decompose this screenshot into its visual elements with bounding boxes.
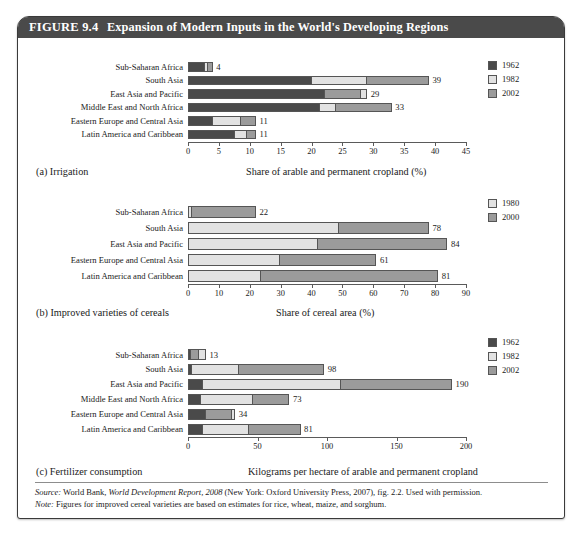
legend-label: 2002 <box>502 366 519 375</box>
x-axis-tick-label: 200 <box>460 442 473 451</box>
legend-swatch-2000 <box>488 213 497 222</box>
x-axis-tick <box>404 284 405 288</box>
category-label: East Asia and Pacific <box>110 380 183 389</box>
bar-value-label: 81 <box>304 425 313 434</box>
x-axis-tick-label: 10 <box>246 147 254 156</box>
bar-row <box>188 270 466 282</box>
bar-row <box>188 222 466 234</box>
x-axis-tick-label: 10 <box>215 289 223 298</box>
x-axis-tick-label: 150 <box>390 442 403 451</box>
figure-title-bar: FIGURE 9.4 Expansion of Modern Inputs in… <box>18 17 564 38</box>
x-axis-tick <box>281 142 282 146</box>
legend-label: 1962 <box>502 338 519 347</box>
category-label: Middle East and North Africa <box>81 103 183 112</box>
x-axis-tick-label: 40 <box>431 147 439 156</box>
x-axis-tick <box>435 284 436 288</box>
source-text-1: World Bank, <box>61 487 108 497</box>
x-axis-tick <box>258 437 259 441</box>
bar-value-label: 29 <box>371 90 380 99</box>
legend-label: 2002 <box>502 89 519 98</box>
bar-segment-1962 <box>188 394 201 405</box>
legend-swatch-1980 <box>488 199 497 208</box>
figure-number: FIGURE 9.4 <box>29 20 107 35</box>
bar-value-label: 34 <box>239 410 248 419</box>
chart-legend: 196219822002 <box>488 338 548 380</box>
x-axis-tick-label: 40 <box>307 289 315 298</box>
bar-segment-2000 <box>188 206 256 218</box>
category-label: Middle East and North Africa <box>81 395 183 404</box>
x-axis-tick <box>397 437 398 441</box>
x-axis-tick-label: 60 <box>369 289 377 298</box>
category-label: Eastern Europe and Central Asia <box>71 410 183 419</box>
category-label: Eastern Europe and Central Asia <box>71 117 183 126</box>
x-axis-tick <box>466 142 467 146</box>
bar-value-label: 61 <box>380 256 389 265</box>
bar-value-label: 81 <box>442 272 451 281</box>
bar-segment-1962 <box>188 116 213 126</box>
x-axis-tick <box>312 284 313 288</box>
x-axis-tick <box>373 284 374 288</box>
x-axis-tick <box>373 142 374 146</box>
x-axis-tick <box>188 437 189 441</box>
legend-label: 1982 <box>502 352 519 361</box>
category-label: South Asia <box>146 365 183 374</box>
legend-label: 1982 <box>502 75 519 84</box>
x-axis-title: Share of cereal area (%) <box>276 307 374 318</box>
bar-segment-1962 <box>188 379 203 390</box>
note-line: Note: Figures for improved cereal variet… <box>35 499 551 511</box>
category-label: Latin America and Caribbean <box>82 272 183 281</box>
chart-legend: 19802000 <box>488 199 548 227</box>
x-axis-tick-label: 70 <box>400 289 408 298</box>
bar-segment-1962 <box>188 103 320 113</box>
bar-row <box>188 206 466 218</box>
x-axis-tick-label: 90 <box>462 289 470 298</box>
bar-segment-1962 <box>188 76 312 86</box>
x-axis-tick-label: 20 <box>246 289 254 298</box>
bar-value-label: 39 <box>432 76 441 85</box>
legend-swatch-1982 <box>488 75 497 84</box>
bar-value-label: 73 <box>293 395 302 404</box>
bar-value-label: 22 <box>259 208 268 217</box>
x-axis-tick <box>435 142 436 146</box>
bar-value-label: 13 <box>210 351 219 360</box>
source-line: Source: World Bank, World Development Re… <box>35 487 551 499</box>
bar-value-label: 84 <box>451 240 460 249</box>
x-axis-tick-label: 80 <box>431 289 439 298</box>
x-axis-tick <box>219 142 220 146</box>
bar-row <box>188 379 466 390</box>
legend-item-2000: 2000 <box>488 213 519 222</box>
legend-swatch-1962 <box>488 61 497 70</box>
figure-title: Expansion of Modern Inputs in the World'… <box>107 20 448 35</box>
legend-item-1982: 1982 <box>488 352 519 361</box>
category-label: Eastern Europe and Central Asia <box>71 256 183 265</box>
category-label: East Asia and Pacific <box>110 90 183 99</box>
category-label: Latin America and Caribbean <box>82 425 183 434</box>
legend-item-2002: 2002 <box>488 89 519 98</box>
x-axis-tick-label: 45 <box>462 147 470 156</box>
x-axis-tick-label: 20 <box>307 147 315 156</box>
source-text-2: (New York: Oxford University Press, 2007… <box>222 487 482 497</box>
bar-value-label: 4 <box>216 63 220 72</box>
bar-segment-1980 <box>188 270 261 282</box>
legend-swatch-2002 <box>488 366 497 375</box>
legend-swatch-1982 <box>488 352 497 361</box>
bar-segment-1980 <box>188 238 318 250</box>
x-axis-line <box>188 284 466 285</box>
note-text: Figures for improved cereal varieties ar… <box>54 499 386 509</box>
x-axis-tick-label: 5 <box>217 147 221 156</box>
legend-label: 1962 <box>502 61 519 70</box>
x-axis-line <box>188 142 466 143</box>
x-axis-tick-label: 35 <box>400 147 408 156</box>
bar-row <box>188 254 466 266</box>
bar-row <box>188 76 466 86</box>
chart-legend: 196219822002 <box>488 61 548 103</box>
panel-caption: (c) Fertilizer consumption <box>36 466 142 477</box>
x-axis-tick-label: 50 <box>253 442 261 451</box>
x-axis-tick <box>327 437 328 441</box>
bar-segment-1982 <box>188 364 239 375</box>
bar-value-label: 78 <box>432 224 441 233</box>
bar-segment-1980 <box>188 222 339 234</box>
x-axis-tick-label: 50 <box>338 289 346 298</box>
bar-row <box>188 424 466 435</box>
x-axis-tick-label: 30 <box>276 289 284 298</box>
